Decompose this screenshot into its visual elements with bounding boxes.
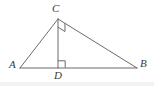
vertex-label-d: D: [54, 70, 62, 81]
segment-CB: [58, 19, 137, 68]
right-angle-mark-D: [58, 61, 65, 68]
vertex-label-b: B: [140, 58, 147, 69]
segment-AC: [20, 19, 58, 68]
bottom-edge-band: [0, 82, 154, 86]
right-angle-mark-C: [58, 23, 65, 31]
figure-canvas: [0, 0, 154, 86]
geometry-figure: A B C D: [0, 0, 154, 86]
vertex-label-c: C: [52, 3, 59, 14]
vertex-label-a: A: [9, 59, 16, 70]
